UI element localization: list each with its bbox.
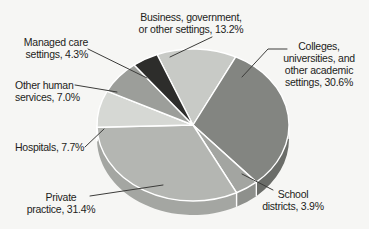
label-line: settings, 30.6% <box>283 76 355 88</box>
label-line: Other human <box>15 79 80 91</box>
label-line: School <box>262 188 324 200</box>
label-line: Hospitals, 7.7% <box>15 141 84 153</box>
label-hospitals: Hospitals, 7.7% <box>15 141 84 153</box>
label-private-practice: Private practice, 31.4% <box>27 191 96 215</box>
label-line: other academic <box>283 64 355 76</box>
label-line: Managed care <box>24 36 88 48</box>
label-line: practice, 31.4% <box>27 203 96 215</box>
label-line: settings, 4.3% <box>24 48 88 60</box>
label-line: Colleges, <box>283 40 355 52</box>
label-other-human-services: Other human services, 7.0% <box>15 79 80 103</box>
label-colleges-universities: Colleges, universities, and other academ… <box>283 40 355 88</box>
label-line: or other settings, 13.2% <box>139 23 244 35</box>
label-school-districts: School districts, 3.9% <box>262 188 324 212</box>
label-business-government: Business, government, or other settings,… <box>139 11 244 35</box>
label-line: Private <box>27 191 96 203</box>
label-line: services, 7.0% <box>15 91 80 103</box>
figure-work-settings-pie: Business, government, or other settings,… <box>0 0 369 229</box>
label-managed-care: Managed care settings, 4.3% <box>24 36 88 60</box>
label-line: Business, government, <box>139 11 244 23</box>
label-line: universities, and <box>283 52 355 64</box>
label-line: districts, 3.9% <box>262 200 324 212</box>
